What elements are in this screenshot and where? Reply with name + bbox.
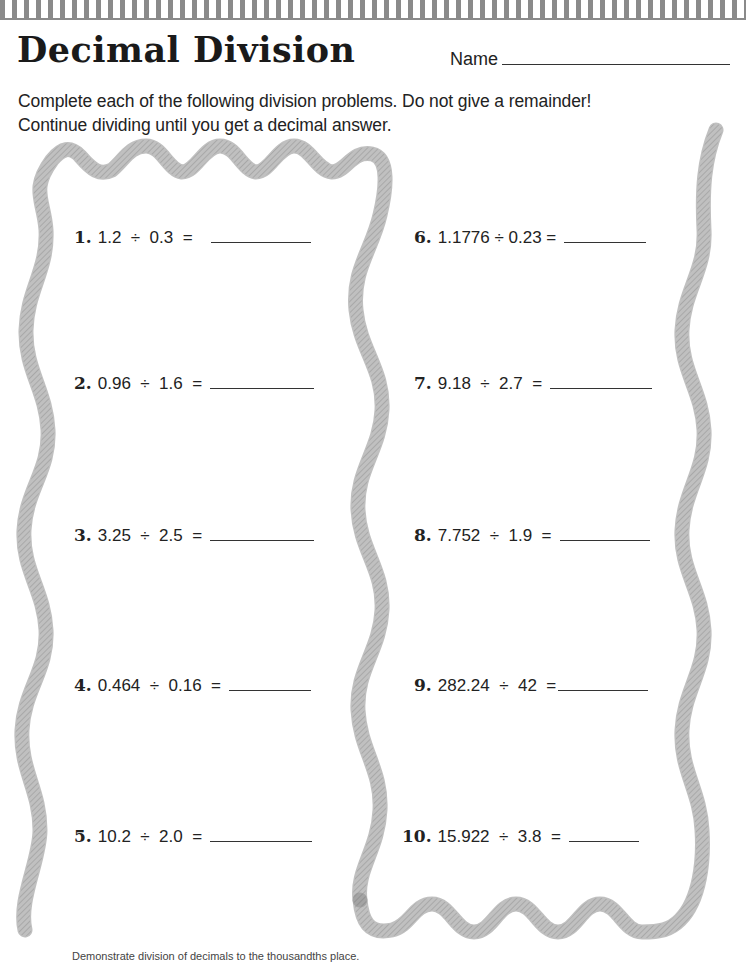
footer-note: Demonstrate division of decimals to the … — [72, 950, 359, 962]
problem-expression: 282.24 ÷ 42 = — [438, 676, 557, 695]
problem-expression: 1.1776 ÷ 0.23 = — [438, 228, 557, 247]
problem-10: 10.15.922 ÷ 3.8 = — [402, 826, 639, 847]
problem-3: 3.3.25 ÷ 2.5 = — [74, 525, 314, 546]
answer-blank[interactable] — [564, 228, 646, 243]
answer-blank[interactable] — [210, 526, 314, 541]
problem-8: 8.7.752 ÷ 1.9 = — [414, 525, 650, 546]
problem-number: 4. — [74, 675, 92, 695]
problem-number: 10. — [402, 826, 432, 846]
problem-expression: 7.752 ÷ 1.9 = — [438, 526, 552, 545]
answer-blank[interactable] — [210, 827, 312, 842]
problem-number: 9. — [414, 675, 432, 695]
problem-7: 7.9.18 ÷ 2.7 = — [414, 373, 652, 394]
problem-expression: 0.464 ÷ 0.16 = — [98, 676, 221, 695]
problem-number: 6. — [414, 227, 432, 247]
problem-expression: 15.922 ÷ 3.8 = — [438, 827, 561, 846]
problem-number: 3. — [74, 525, 92, 545]
problem-2: 2.0.96 ÷ 1.6 = — [74, 373, 314, 394]
problem-number: 1. — [74, 227, 92, 247]
problem-5: 5.10.2 ÷ 2.0 = — [74, 826, 312, 847]
problem-expression: 3.25 ÷ 2.5 = — [98, 526, 202, 545]
problem-number: 2. — [74, 373, 92, 393]
answer-blank[interactable] — [550, 374, 652, 389]
answer-blank[interactable] — [569, 827, 639, 842]
answer-blank[interactable] — [211, 228, 311, 243]
problem-6: 6.1.1776 ÷ 0.23 = — [414, 227, 646, 248]
answer-blank[interactable] — [558, 676, 648, 691]
problem-9: 9.282.24 ÷ 42 = — [414, 675, 648, 696]
problem-number: 8. — [414, 525, 432, 545]
answer-blank[interactable] — [560, 526, 650, 541]
problem-1: 1.1.2 ÷ 0.3 = — [74, 227, 311, 248]
answer-blank[interactable] — [229, 676, 311, 691]
problem-expression: 10.2 ÷ 2.0 = — [98, 827, 202, 846]
problem-expression: 9.18 ÷ 2.7 = — [438, 374, 542, 393]
problem-4: 4.0.464 ÷ 0.16 = — [74, 675, 311, 696]
answer-blank[interactable] — [210, 374, 314, 389]
problem-number: 5. — [74, 826, 92, 846]
problem-expression: 0.96 ÷ 1.6 = — [98, 374, 202, 393]
problem-expression: 1.2 ÷ 0.3 = — [98, 228, 193, 247]
problem-number: 7. — [414, 373, 432, 393]
